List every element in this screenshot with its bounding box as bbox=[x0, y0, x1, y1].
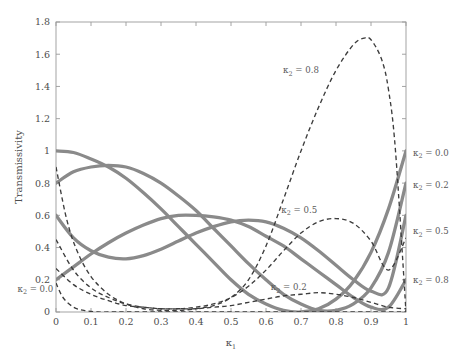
curve-annotation: κ2 = 0.5 bbox=[413, 226, 449, 239]
x-tick-label: 0.7 bbox=[293, 316, 308, 327]
x-tick-label: 0.5 bbox=[223, 316, 238, 327]
y-tick-label: 1.6 bbox=[35, 49, 50, 60]
transmissivity-chart: 00.10.20.30.40.50.60.70.80.9100.20.40.60… bbox=[0, 0, 462, 352]
x-tick-label: 1 bbox=[403, 316, 409, 327]
x-tick-label: 0.9 bbox=[363, 316, 378, 327]
curve-annotation: κ2 = 0.2 bbox=[413, 180, 449, 193]
y-tick-label: 1.2 bbox=[35, 113, 50, 124]
curve-annotation: κ2 = 0.5 bbox=[281, 205, 317, 218]
curve-0-8 bbox=[56, 37, 406, 312]
x-tick-label: 0.6 bbox=[258, 316, 273, 327]
figure-container: 00.10.20.30.40.50.60.70.80.9100.20.40.60… bbox=[0, 0, 462, 352]
y-tick-label: 0.6 bbox=[35, 210, 50, 221]
y-tick-label: 1.8 bbox=[35, 16, 50, 27]
y-axis-title: Transmissivity bbox=[13, 130, 24, 204]
x-tick-label: 0.8 bbox=[328, 316, 343, 327]
y-tick-label: 0 bbox=[44, 306, 50, 317]
x-axis-title: κ1 bbox=[226, 337, 236, 351]
curve-solid-1 bbox=[56, 151, 406, 312]
curve-annotation: κ2 = 0.2 bbox=[271, 282, 307, 295]
y-tick-label: 1 bbox=[44, 145, 50, 156]
curve-solid-4 bbox=[56, 215, 406, 310]
x-tick-label: 0.1 bbox=[83, 316, 98, 327]
x-tick-label: 0 bbox=[53, 316, 59, 327]
curve-annotation: κ2 = 0.8 bbox=[413, 275, 449, 288]
curve-annotation: κ2 = 0.0 bbox=[18, 284, 54, 297]
x-tick-label: 0.3 bbox=[153, 316, 168, 327]
y-tick-label: 0.8 bbox=[35, 178, 50, 189]
curve-solid-2 bbox=[56, 165, 406, 311]
x-tick-label: 0.4 bbox=[188, 316, 203, 327]
curve-annotation: κ2 = 0.0 bbox=[413, 148, 449, 161]
y-tick-label: 0.4 bbox=[35, 242, 50, 253]
y-tick-label: 1.4 bbox=[35, 81, 50, 92]
curve-0-5 bbox=[56, 219, 406, 309]
x-tick-label: 0.2 bbox=[118, 316, 133, 327]
curve-annotation: κ2 = 0.8 bbox=[283, 65, 319, 78]
